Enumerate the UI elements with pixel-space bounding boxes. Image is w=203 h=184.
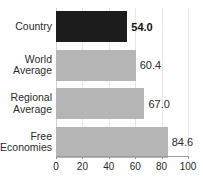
bar-value-label: 67.0 <box>148 98 169 109</box>
category-label-country: Country <box>0 11 52 42</box>
bar-value-label: 84.6 <box>172 137 193 148</box>
x-axis-ticks <box>56 156 188 160</box>
gridline-100 <box>188 8 189 156</box>
bar-value-label: 54.0 <box>131 21 152 32</box>
x-tick-label-100: 100 <box>180 161 197 173</box>
bar-free-economies[interactable] <box>56 127 168 158</box>
bar-regional-average[interactable] <box>56 88 144 119</box>
x-tick-20 <box>82 156 83 159</box>
category-label-line: Country <box>15 21 52 33</box>
chart-title-cropped <box>0 0 203 6</box>
x-tick-label-20: 20 <box>77 161 88 173</box>
category-label-line: Average <box>13 65 52 77</box>
bar-value-label: 60.4 <box>140 60 161 71</box>
category-label-world-average: WorldAverage <box>0 50 52 81</box>
bar-row[interactable]: 54.0 <box>56 11 188 42</box>
x-tick-label-40: 40 <box>103 161 114 173</box>
x-tick-label-80: 80 <box>156 161 167 173</box>
x-tick-40 <box>109 156 110 159</box>
category-axis-labels: CountryWorldAverageRegionalAverageFreeEc… <box>0 8 52 156</box>
bar-row[interactable]: 67.0 <box>56 88 188 119</box>
x-tick-100 <box>188 156 189 159</box>
bar-country[interactable] <box>56 11 127 42</box>
bar-world-average[interactable] <box>56 50 136 81</box>
bar-row[interactable]: 84.6 <box>56 127 188 158</box>
category-label-line: Average <box>13 104 52 116</box>
x-tick-label-60: 60 <box>130 161 141 173</box>
x-tick-label-0: 0 <box>53 161 59 173</box>
bar-chart-figure: CountryWorldAverageRegionalAverageFreeEc… <box>0 0 203 184</box>
plot-area: 54.060.467.084.6 <box>56 8 188 156</box>
bar-row[interactable]: 60.4 <box>56 50 188 81</box>
x-tick-0 <box>56 156 57 159</box>
x-axis-tick-labels: 020406080100 <box>56 161 188 175</box>
x-tick-80 <box>162 156 163 159</box>
category-label-line: Economies <box>0 142 52 154</box>
category-label-line: Regional <box>11 92 52 104</box>
x-tick-60 <box>135 156 136 159</box>
category-label-regional-average: RegionalAverage <box>0 88 52 119</box>
bar-rows: 54.060.467.084.6 <box>56 8 188 156</box>
category-label-free-economies: FreeEconomies <box>0 127 52 158</box>
